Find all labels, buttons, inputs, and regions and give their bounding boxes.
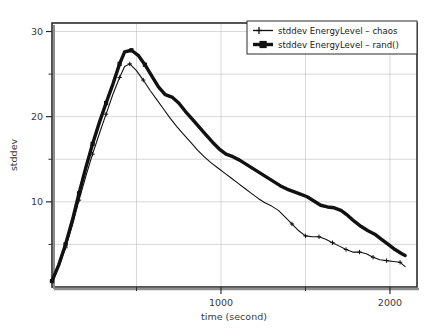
y-axis-title: stddev: [8, 139, 19, 172]
x-tick-label: 1000: [209, 297, 233, 308]
chart-container: 10203010002000 stddev EnergyLevel – chao…: [0, 0, 432, 331]
y-tick-label: 20: [31, 111, 43, 122]
y-tick-label: 10: [31, 196, 43, 207]
stddev-vs-time-line-chart: 10203010002000 stddev EnergyLevel – chao…: [0, 0, 432, 331]
y-tick-label: 30: [31, 26, 43, 37]
chart-legend: stddev EnergyLevel – chaosstddev EnergyL…: [247, 21, 417, 54]
x-tick-label: 2000: [378, 297, 402, 308]
x-axis-title: time (second): [201, 311, 267, 322]
legend-label: stddev EnergyLevel – chaos: [278, 26, 398, 36]
legend-label: stddev EnergyLevel – rand(): [278, 40, 399, 50]
